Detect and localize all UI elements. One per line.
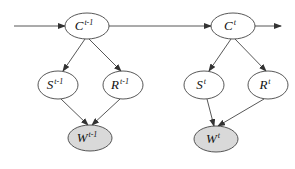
node-R_cur: Rt bbox=[248, 71, 288, 99]
node-R_prev: Rt-1 bbox=[103, 71, 143, 99]
node-C_prev: Ct-1 bbox=[65, 13, 109, 39]
edge-R_cur-to-W_cur bbox=[218, 99, 264, 126]
bayesian-network-diagram: Ct-1CtSt-1Rt-1StRtWt-1Wt bbox=[0, 0, 295, 169]
node-C_cur: Ct bbox=[211, 13, 255, 39]
edge-C_cur-to-S_cur bbox=[209, 39, 231, 71]
node-S_prev: St-1 bbox=[38, 71, 78, 99]
nodes: Ct-1CtSt-1Rt-1StRtWt-1Wt bbox=[38, 13, 288, 152]
edge-C_cur-to-R_cur bbox=[235, 39, 266, 71]
edge-S_cur-to-W_cur bbox=[207, 99, 214, 126]
node-S_cur: St bbox=[184, 71, 224, 99]
edge-R_prev-to-W_prev bbox=[92, 99, 120, 125]
node-W_prev: Wt-1 bbox=[68, 125, 112, 151]
edge-C_prev-to-S_prev bbox=[63, 39, 85, 71]
node-W_cur: Wt bbox=[194, 126, 238, 152]
edge-S_prev-to-W_prev bbox=[61, 99, 88, 125]
edge-C_prev-to-R_prev bbox=[89, 39, 121, 71]
